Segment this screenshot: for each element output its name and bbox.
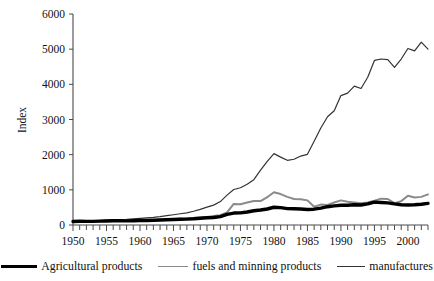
line-chart: Index 0100020003000400050006000 19501955… <box>0 0 434 281</box>
x-tick-label: 1960 <box>128 235 151 247</box>
legend-label: Agricultural products <box>41 259 142 274</box>
data-series-group <box>73 42 428 221</box>
legend-swatch-agri-icon <box>1 265 37 268</box>
x-tick-label: 1955 <box>95 235 118 247</box>
x-tick-label: 1990 <box>329 235 352 247</box>
legend-entry-manu[interactable]: manufactures <box>337 259 433 274</box>
chart-figure: Index 0100020003000400050006000 19501955… <box>0 0 434 281</box>
legend-swatch-fuel-icon <box>158 266 188 268</box>
legend-entry-fuel[interactable]: fuels and minning products <box>158 259 321 274</box>
y-tick-label: 6000 <box>42 8 65 20</box>
y-tick-label: 0 <box>59 219 65 231</box>
series-line <box>73 202 428 221</box>
x-tick-label: 2000 <box>396 235 419 247</box>
x-tick-label: 1985 <box>296 235 319 247</box>
y-axis-tick-labels: 0100020003000400050006000 <box>42 8 65 231</box>
x-tick-label: 1950 <box>62 235 85 247</box>
x-tick-label: 1995 <box>363 235 386 247</box>
y-tick-label: 4000 <box>42 78 65 90</box>
x-axis-tick-labels: 1950195519601965197019751980198519901995… <box>62 235 420 247</box>
legend-label: fuels and minning products <box>192 259 321 274</box>
y-tick-label: 2000 <box>42 149 65 161</box>
y-axis-title: Index <box>16 107 28 133</box>
x-tick-label: 1975 <box>229 235 252 247</box>
legend-swatch-manu-icon <box>337 266 365 267</box>
y-tick-label: 3000 <box>42 114 65 126</box>
x-tick-label: 1980 <box>262 235 285 247</box>
y-axis-tick-marks <box>69 14 73 225</box>
series-line <box>73 42 428 221</box>
chart-legend: Agricultural productsfuels and minning p… <box>0 252 434 281</box>
x-tick-label: 1970 <box>195 235 218 247</box>
series-line <box>73 192 428 221</box>
y-tick-label: 5000 <box>42 43 65 55</box>
legend-label: manufactures <box>369 259 433 274</box>
y-tick-label: 1000 <box>42 184 65 196</box>
x-axis-tick-marks <box>73 225 428 231</box>
legend-entry-agri[interactable]: Agricultural products <box>1 259 142 274</box>
x-tick-label: 1965 <box>162 235 185 247</box>
